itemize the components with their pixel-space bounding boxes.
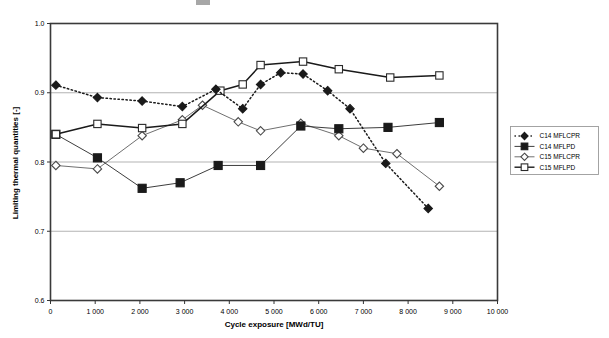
series-line [56, 62, 440, 135]
data-point-marker [138, 131, 146, 139]
y-tick-label: 1.0 [35, 20, 45, 27]
data-point-marker [138, 184, 146, 192]
series-c15-mflcpr [52, 101, 444, 190]
data-point-marker [176, 179, 184, 187]
data-point-marker [239, 81, 246, 88]
data-point-marker [387, 74, 394, 81]
data-point-marker [435, 118, 443, 126]
data-point-marker [93, 154, 101, 162]
data-point-marker [435, 182, 443, 190]
data-point-marker [93, 93, 101, 101]
x-tick-label: 3 000 [176, 308, 194, 315]
x-tick-label: 6 000 [310, 308, 328, 315]
x-tick-label: 9 000 [444, 308, 462, 315]
data-point-marker [52, 131, 59, 138]
data-point-marker [256, 127, 264, 135]
data-point-marker [299, 58, 306, 65]
data-point-marker [52, 161, 60, 169]
series-c14-mflcpr [52, 68, 433, 212]
data-point-marker [179, 120, 186, 127]
chart-canvas: 0.60.70.80.91.0 01 0002 0003 0004 0005 0… [0, 0, 609, 338]
x-axis-ticks: 01 0002 0003 0004 0005 0006 0007 0008 00… [49, 301, 509, 315]
series-line [56, 123, 440, 189]
x-tick-label: 4 000 [221, 308, 239, 315]
chart-legend: C14 MFLCPRC14 MFLPDC15 MFLCPRC15 MFLPD [511, 127, 599, 175]
data-point-marker [297, 122, 305, 130]
data-point-marker [52, 81, 60, 89]
data-point-marker [384, 123, 392, 131]
data-point-marker [299, 70, 307, 78]
x-tick-label: 1 000 [86, 308, 104, 315]
data-point-marker [436, 72, 443, 79]
legend-item-label[interactable]: C15 MFLPD [540, 164, 576, 171]
chart-figure: 0.60.70.80.91.0 01 0002 0003 0004 0005 0… [0, 0, 609, 338]
legend-item-label[interactable]: C14 MFLCPR [540, 132, 581, 139]
data-point-marker [277, 68, 285, 76]
x-tick-label: 0 [49, 308, 53, 315]
data-point-marker [257, 61, 264, 68]
data-point-marker [359, 144, 367, 152]
series-line [56, 105, 440, 186]
data-point-marker [214, 161, 222, 169]
data-point-marker [234, 118, 242, 126]
y-tick-label: 0.9 [35, 89, 45, 96]
x-tick-label: 7 000 [355, 308, 373, 315]
x-axis-label: Cycle exposure [MWd/TU] [225, 320, 324, 329]
data-point-marker [138, 97, 146, 105]
data-point-marker [521, 143, 528, 150]
x-tick-label: 10 000 [487, 308, 509, 315]
data-point-marker [93, 165, 101, 173]
data-series-layer [52, 58, 444, 213]
y-tick-label: 0.7 [35, 228, 45, 235]
data-point-marker [257, 161, 265, 169]
y-axis-ticks: 0.60.70.80.91.0 [35, 20, 51, 304]
x-tick-label: 8 000 [399, 308, 417, 315]
data-point-marker [335, 66, 342, 73]
data-point-marker [335, 125, 343, 133]
y-axis-label: Limiting thermal quantities [-] [11, 106, 20, 219]
y-tick-label: 0.8 [35, 159, 45, 166]
data-point-marker [393, 149, 401, 157]
x-tick-label: 2 000 [131, 308, 149, 315]
data-point-marker [178, 102, 186, 110]
legend-item-label[interactable]: C14 MFLPD [540, 143, 576, 150]
data-point-marker [94, 120, 101, 127]
series-c14-mflpd [52, 118, 444, 192]
data-point-marker [521, 164, 528, 171]
data-point-marker [138, 124, 145, 131]
y-tick-label: 0.6 [35, 297, 45, 304]
legend-item-label[interactable]: C15 MFLCPR [540, 153, 581, 160]
x-tick-label: 5 000 [265, 308, 283, 315]
